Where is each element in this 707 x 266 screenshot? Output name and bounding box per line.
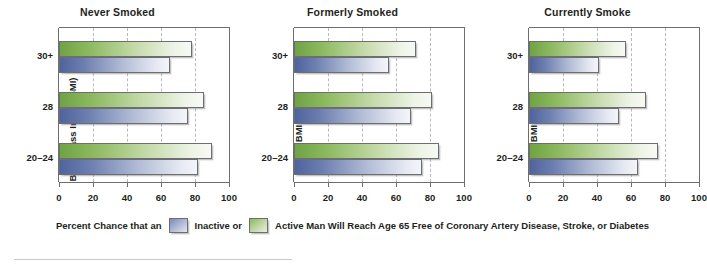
bar-row-active — [59, 143, 229, 159]
xtick-40 — [362, 182, 363, 187]
panel-title: Never Smoked — [0, 6, 235, 18]
xtick-40 — [127, 182, 128, 187]
xtick-label-80: 80 — [425, 192, 436, 203]
xtick-label-40: 40 — [592, 192, 603, 203]
bar-row-inactive — [529, 159, 699, 175]
bar-active — [294, 41, 416, 57]
bar-active — [294, 143, 439, 159]
bar-row-active — [294, 143, 464, 159]
bar-active — [59, 92, 204, 108]
bar-row-active — [294, 41, 464, 57]
xtick-60 — [161, 182, 162, 187]
plot-area: BMI 0 20 40 60 80 100 30+ — [528, 28, 699, 182]
bar-row-inactive — [529, 57, 699, 73]
xtick-label-80: 80 — [190, 192, 201, 203]
bar-inactive — [59, 108, 188, 124]
legend-swatch-active-icon — [249, 218, 268, 233]
xtick-label-0: 0 — [56, 192, 61, 203]
bar-active — [529, 143, 658, 159]
panel-row: Never Smoked Body Mass Index (BMI) 0 20 … — [0, 0, 705, 205]
plot-top-frame — [294, 27, 464, 28]
category-label-30plus: 30+ — [507, 50, 523, 61]
panel-title: Currently Smoke — [470, 6, 705, 18]
plot-bottom-axis — [294, 182, 464, 183]
bar-row-inactive — [59, 159, 229, 175]
bar-active — [529, 41, 626, 57]
bar-row-inactive — [529, 108, 699, 124]
xtick-20 — [93, 182, 94, 187]
panel-formerly-smoked: Formerly Smoked BMI 0 20 40 60 80 — [235, 0, 470, 205]
category-label-20-24: 20–24 — [27, 152, 53, 163]
xtick-100 — [699, 182, 700, 187]
xtick-60 — [396, 182, 397, 187]
xtick-0 — [59, 182, 60, 187]
category-label-20-24: 20–24 — [262, 152, 288, 163]
bar-row-active — [529, 143, 699, 159]
xtick-label-100: 100 — [691, 192, 707, 203]
bar-row-active — [529, 92, 699, 108]
bar-row-inactive — [59, 57, 229, 73]
bar-group-30plus: 30+ — [529, 41, 699, 73]
bar-row-active — [529, 41, 699, 57]
xtick-label-0: 0 — [526, 192, 531, 203]
bar-inactive — [294, 57, 389, 73]
bar-inactive — [294, 108, 411, 124]
xtick-100 — [464, 182, 465, 187]
xtick-100 — [229, 182, 230, 187]
plot-area: Body Mass Index (BMI) 0 20 40 60 80 100 — [58, 28, 229, 182]
xtick-label-0: 0 — [291, 192, 296, 203]
category-label-28: 28 — [512, 101, 523, 112]
bar-row-active — [294, 92, 464, 108]
bar-row-inactive — [294, 108, 464, 124]
y-axis-title: Body Mass Index (BMI) — [67, 60, 78, 200]
panel-never-smoked: Never Smoked Body Mass Index (BMI) 0 20 … — [0, 0, 235, 205]
bar-inactive — [529, 57, 599, 73]
legend-label-inactive: Inactive or — [195, 220, 243, 231]
bar-group-28: 28 — [529, 92, 699, 124]
xtick-20 — [328, 182, 329, 187]
bar-group-20-24: 20–24 — [529, 143, 699, 175]
bar-group-20-24: 20–24 — [59, 143, 229, 175]
xtick-20 — [563, 182, 564, 187]
plot-top-frame — [59, 27, 229, 28]
bar-inactive — [294, 159, 422, 175]
bar-group-28: 28 — [294, 92, 464, 124]
bar-active — [294, 92, 432, 108]
plot-area: BMI 0 20 40 60 80 100 30+ — [293, 28, 464, 182]
bar-inactive — [59, 159, 198, 175]
bar-group-28: 28 — [59, 92, 229, 124]
category-label-28: 28 — [277, 101, 288, 112]
category-label-28: 28 — [42, 101, 53, 112]
xtick-label-60: 60 — [626, 192, 637, 203]
bar-row-inactive — [294, 159, 464, 175]
category-label-30plus: 30+ — [37, 50, 53, 61]
bar-active — [59, 41, 192, 57]
bar-row-inactive — [59, 108, 229, 124]
bar-group-30plus: 30+ — [59, 41, 229, 73]
bar-group-20-24: 20–24 — [294, 143, 464, 175]
bar-row-inactive — [294, 57, 464, 73]
category-label-30plus: 30+ — [272, 50, 288, 61]
xtick-label-60: 60 — [156, 192, 167, 203]
xtick-label-40: 40 — [122, 192, 133, 203]
xtick-label-80: 80 — [660, 192, 671, 203]
bar-active — [59, 143, 212, 159]
xtick-label-40: 40 — [357, 192, 368, 203]
xtick-label-60: 60 — [391, 192, 402, 203]
xtick-80 — [195, 182, 196, 187]
bar-group-30plus: 30+ — [294, 41, 464, 73]
plot-bottom-axis — [529, 182, 699, 183]
bar-row-active — [59, 92, 229, 108]
category-label-20-24: 20–24 — [497, 152, 523, 163]
legend-label-active: Active Man Will Reach Age 65 Free of Cor… — [275, 220, 649, 231]
bar-row-active — [59, 41, 229, 57]
xtick-40 — [597, 182, 598, 187]
legend-swatch-inactive-icon — [169, 218, 188, 233]
plot-bottom-axis — [59, 182, 229, 183]
bar-inactive — [59, 57, 170, 73]
bar-active — [529, 92, 646, 108]
xtick-0 — [529, 182, 530, 187]
plot-top-frame — [529, 27, 699, 28]
xtick-label-20: 20 — [88, 192, 99, 203]
